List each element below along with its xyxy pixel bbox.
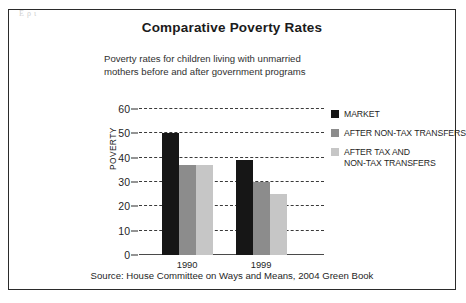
- plot-area: 0102030405060 19901999: [139, 109, 324, 255]
- y-axis-tick-label: 10: [118, 225, 130, 237]
- legend-label-line: NON-TAX TRANSFERS: [344, 158, 436, 169]
- source-note: Source: House Committee on Ways and Mean…: [9, 270, 455, 281]
- y-axis-tick-label: 0: [124, 249, 130, 261]
- legend-item: AFTER TAX ANDNON-TAX TRANSFERS: [331, 147, 456, 169]
- y-axis-title: POVERTY: [108, 127, 118, 170]
- legend-swatch-icon: [331, 129, 339, 137]
- scan-artifact-text: Ερι: [19, 9, 39, 18]
- y-axis-tick-label: 30: [118, 176, 130, 188]
- y-axis-tick-label: 50: [118, 127, 130, 139]
- y-axis-tick-mark: [131, 230, 138, 231]
- legend-swatch-icon: [331, 110, 339, 118]
- bar: [270, 194, 287, 255]
- bar: [236, 160, 253, 255]
- bar: [162, 133, 179, 255]
- chart-legend: MARKETAFTER NON-TAX TRANSFERSAFTER TAX A…: [331, 109, 456, 177]
- y-axis-tick-label: 20: [118, 200, 130, 212]
- legend-label-line: AFTER TAX AND: [344, 147, 436, 158]
- x-axis-tick-label: 1999: [251, 259, 272, 270]
- y-axis-tick-label: 40: [118, 152, 130, 164]
- chart-subtitle: Poverty rates for children living with u…: [104, 52, 364, 78]
- y-axis-tick-mark: [131, 109, 138, 110]
- y-axis-tick-mark: [131, 206, 138, 207]
- legend-item: MARKET: [331, 109, 456, 120]
- y-axis-tick-mark: [131, 133, 138, 134]
- legend-swatch-icon: [331, 148, 339, 156]
- x-axis-tick-label: 1990: [177, 259, 198, 270]
- chart-figure: Ερι Comparative Poverty Rates Poverty ra…: [8, 9, 456, 290]
- legend-item-label: AFTER TAX ANDNON-TAX TRANSFERS: [344, 147, 436, 169]
- y-axis-tick-label: 60: [118, 103, 130, 115]
- chart-subtitle-line-2: mothers before and after government prog…: [104, 65, 364, 78]
- chart-subtitle-line-1: Poverty rates for children living with u…: [104, 52, 364, 65]
- y-axis-tick-mark: [131, 182, 138, 183]
- bar: [196, 165, 213, 255]
- y-axis-tick-mark: [131, 255, 138, 256]
- bar: [179, 165, 196, 255]
- legend-item-label: MARKET: [344, 109, 380, 120]
- bar: [253, 182, 270, 255]
- legend-item: AFTER NON-TAX TRANSFERS: [331, 128, 456, 139]
- gridline: 60: [139, 108, 324, 109]
- chart-title: Comparative Poverty Rates: [9, 20, 455, 35]
- legend-item-label: AFTER NON-TAX TRANSFERS: [344, 128, 466, 139]
- legend-label-line: AFTER NON-TAX TRANSFERS: [344, 128, 466, 139]
- legend-label-line: MARKET: [344, 109, 380, 120]
- y-axis-tick-mark: [131, 157, 138, 158]
